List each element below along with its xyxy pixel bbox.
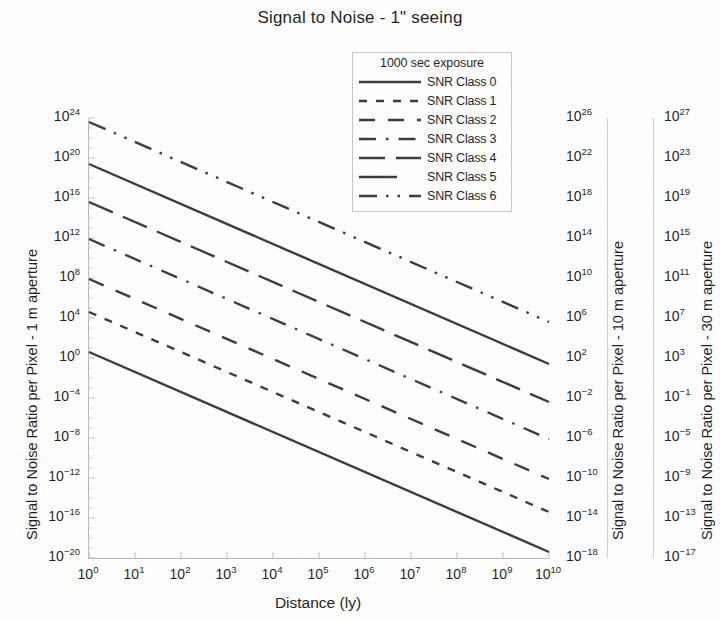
y-tick-label: 1027 — [664, 109, 716, 123]
y-tick-label: 10−10 — [566, 469, 618, 483]
x-tick-label: 107 — [387, 567, 433, 581]
y-tick-label: 103 — [664, 349, 716, 363]
y-tick-label: 10−8 — [28, 429, 80, 443]
legend-item[interactable]: SNR Class 2 — [357, 110, 507, 129]
data-line — [89, 352, 549, 552]
y-tick-label: 1016 — [28, 189, 80, 203]
legend-item-label: SNR Class 3 — [427, 132, 496, 146]
legend-item[interactable]: SNR Class 1 — [357, 91, 507, 110]
legend-item[interactable]: SNR Class 5 — [357, 167, 507, 186]
legend-item-label: SNR Class 4 — [427, 151, 496, 165]
legend-item-label: SNR Class 5 — [427, 170, 496, 184]
legend-line-swatch — [357, 75, 423, 89]
x-tick-label: 1010 — [525, 567, 571, 581]
page-title: Signal to Noise - 1" seeing — [0, 8, 720, 28]
y-tick-label: 1023 — [664, 149, 716, 163]
legend-title: 1000 sec exposure — [357, 56, 507, 70]
y-tick-label: 1012 — [28, 229, 80, 243]
x-tick-label: 102 — [157, 567, 203, 581]
legend-item-label: SNR Class 0 — [427, 75, 496, 89]
y-tick-label: 1020 — [28, 149, 80, 163]
y-tick-label: 106 — [566, 309, 618, 323]
y-tick-label: 1022 — [566, 149, 618, 163]
legend-item[interactable]: SNR Class 3 — [357, 129, 507, 148]
y-tick-label: 10−16 — [28, 509, 80, 523]
y-tick-label: 1018 — [566, 189, 618, 203]
y-tick-label: 1010 — [566, 269, 618, 283]
y-axis-spine-right — [653, 118, 654, 558]
legend: 1000 sec exposure SNR Class 0SNR Class 1… — [352, 52, 512, 212]
y-tick-label: 1011 — [664, 269, 716, 283]
y-tick-label: 10−17 — [664, 549, 716, 563]
y-tick-label: 104 — [28, 309, 80, 323]
y-tick-label: 1014 — [566, 229, 618, 243]
legend-item[interactable]: SNR Class 6 — [357, 186, 507, 205]
x-tick-label: 100 — [65, 567, 111, 581]
x-tick-label: 106 — [341, 567, 387, 581]
y-tick-label: 1026 — [566, 109, 618, 123]
y-tick-label: 10−4 — [28, 389, 80, 403]
y-tick-label: 108 — [28, 269, 80, 283]
y-tick-label: 1019 — [664, 189, 716, 203]
x-tick-label: 103 — [203, 567, 249, 581]
x-tick-label: 101 — [111, 567, 157, 581]
legend-item[interactable]: SNR Class 0 — [357, 72, 507, 91]
y-tick-label: 102 — [566, 349, 618, 363]
legend-item-label: SNR Class 6 — [427, 189, 496, 203]
data-line — [89, 312, 549, 512]
legend-line-swatch — [357, 132, 423, 146]
x-tick-label: 105 — [295, 567, 341, 581]
y-tick-label: 10−12 — [28, 469, 80, 483]
y-tick-label: 10−1 — [664, 389, 716, 403]
y-tick-label: 10−5 — [664, 429, 716, 443]
data-line — [89, 202, 549, 402]
y-tick-label: 100 — [28, 349, 80, 363]
legend-line-swatch — [357, 189, 423, 203]
legend-item-label: SNR Class 1 — [427, 94, 496, 108]
legend-line-swatch — [357, 170, 423, 184]
x-tick-label: 109 — [479, 567, 525, 581]
y-tick-label: 10−9 — [664, 469, 716, 483]
legend-item[interactable]: SNR Class 4 — [357, 148, 507, 167]
y-tick-label: 10−14 — [566, 509, 618, 523]
x-tick-label: 108 — [433, 567, 479, 581]
y-tick-label: 10−13 — [664, 509, 716, 523]
y-tick-label: 10−20 — [28, 549, 80, 563]
y-tick-label: 1015 — [664, 229, 716, 243]
legend-line-swatch — [357, 94, 423, 108]
data-line — [89, 239, 549, 439]
legend-line-swatch — [357, 113, 423, 127]
y-axis-spine-middle — [607, 118, 608, 558]
y-tick-label: 10−2 — [566, 389, 618, 403]
y-tick-label: 107 — [664, 309, 716, 323]
y-tick-label: 10−6 — [566, 429, 618, 443]
x-axis-title: Distance (ly) — [88, 594, 548, 612]
legend-line-swatch — [357, 151, 423, 165]
legend-rows: SNR Class 0SNR Class 1SNR Class 2SNR Cla… — [357, 72, 507, 205]
legend-item-label: SNR Class 2 — [427, 113, 496, 127]
y-tick-label: 10−18 — [566, 549, 618, 563]
chart-figure: Signal to Noise - 1" seeing Signal to No… — [0, 0, 720, 621]
x-tick-label: 104 — [249, 567, 295, 581]
y-tick-label: 1024 — [28, 109, 80, 123]
data-line — [89, 279, 549, 479]
